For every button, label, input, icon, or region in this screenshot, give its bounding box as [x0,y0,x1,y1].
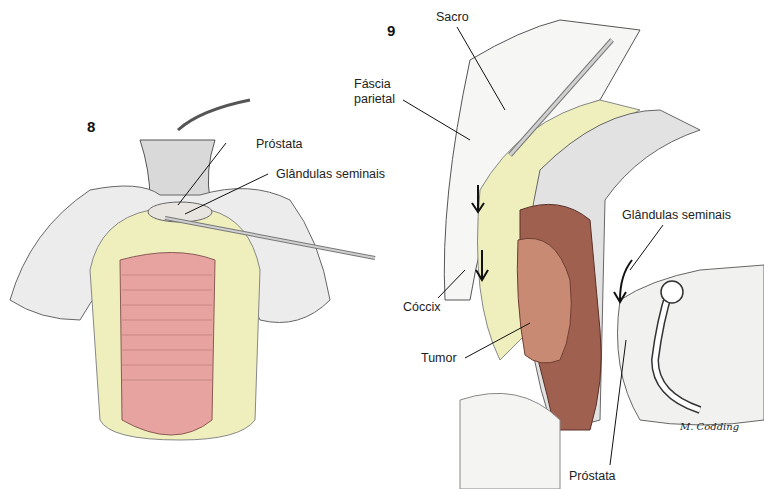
artist-signature: M. Codding [680,420,739,434]
figure-9-number: 9 [387,22,395,39]
label-coccix: Cóccix [403,300,441,314]
label-prostata-fig8: Próstata [256,137,303,151]
label-fascia-line2: parietal [354,92,395,106]
label-tumor: Tumor [421,351,457,365]
label-glandulas-seminais-fig8: Glândulas seminais [276,167,385,181]
figure-9-artwork [0,0,764,489]
label-glandulas-seminais-fig9: Glândulas seminais [622,208,731,222]
label-prostata-fig9: Próstata [569,469,616,483]
label-fascia-line1: Fáscia [354,77,391,91]
figure-8-number: 8 [87,118,95,135]
illustration: 8 9 Próstata Glândulas seminais Sacro Fá… [0,0,764,489]
label-sacro: Sacro [436,10,469,24]
